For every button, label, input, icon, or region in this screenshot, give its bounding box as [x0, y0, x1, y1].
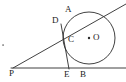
point-label-a: A — [65, 5, 72, 14]
geometry-canvas — [0, 0, 126, 82]
point-label-p: P — [9, 69, 14, 78]
point-label-e: E — [64, 70, 70, 79]
segment-d-to-e-line — [61, 24, 69, 69]
circle-center-dot — [88, 37, 90, 39]
point-label-b: B — [80, 70, 86, 79]
point-label-o: O — [93, 33, 100, 42]
point-label-c: C — [68, 35, 74, 44]
geometry-figure: A D C O P E B — [0, 0, 126, 82]
stray-speck — [2, 44, 4, 46]
point-label-d: D — [52, 16, 59, 25]
